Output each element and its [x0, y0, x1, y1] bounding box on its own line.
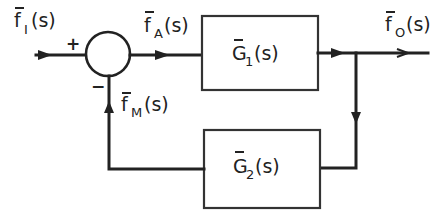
g2-label-sub: 2: [246, 167, 254, 182]
input-label-base: f: [14, 9, 22, 31]
actuating-signal-label: f A (s): [144, 12, 189, 41]
minus-sign: −: [91, 76, 105, 96]
feedback-label-arg: (s): [144, 93, 169, 115]
output-label-base: f: [385, 13, 393, 35]
forward-block-g1: G 1 (s): [202, 16, 318, 90]
output-arrow-icon-1: [331, 48, 345, 58]
output-signal-line: [318, 48, 428, 58]
input-signal-label: f I (s): [14, 8, 56, 37]
feedback-block-g2: G 2 (s): [204, 130, 320, 208]
actuating-label-arg: (s): [164, 14, 189, 36]
branch-arrow-icon: [351, 112, 361, 124]
feedback-branch-line: [320, 53, 361, 168]
feedback-label-sub: M: [131, 105, 142, 120]
output-signal-label: f O (s): [385, 12, 431, 40]
feedback-block-diagram: f I (s) + − f A (s) G 1 (s) f O (s): [0, 0, 446, 220]
output-label-arg: (s): [406, 13, 431, 35]
feedback-label-base: f: [121, 93, 129, 115]
g2-label-arg: (s): [255, 155, 280, 177]
feedback-arrow-icon: [104, 101, 114, 113]
feedback-signal-line: [104, 76, 204, 169]
actuating-signal-line: [130, 50, 202, 60]
actuating-label-base: f: [144, 14, 152, 36]
output-label-sub: O: [395, 25, 405, 40]
input-label-arg: (s): [31, 9, 56, 31]
input-arrow-icon: [38, 50, 52, 60]
plus-sign: +: [66, 34, 80, 54]
actuating-arrow-icon: [155, 50, 170, 60]
g1-label-sub: 1: [245, 54, 253, 69]
actuating-label-sub: A: [154, 26, 163, 41]
g1-label-arg: (s): [254, 42, 279, 64]
feedback-signal-label: f M (s): [121, 93, 169, 120]
input-label-sub: I: [24, 22, 28, 37]
summing-junction: [86, 32, 130, 76]
